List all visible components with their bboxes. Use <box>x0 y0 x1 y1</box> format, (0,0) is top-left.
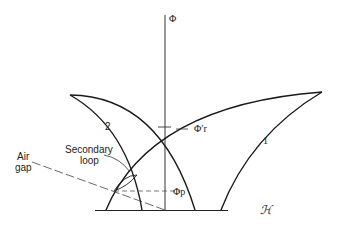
air-gap-label-line2: gap <box>15 162 32 173</box>
air-gap-line <box>32 162 165 210</box>
air-gap-label-line1: Air <box>17 151 29 162</box>
phi-r-label: Φ′r <box>194 123 207 134</box>
curve-1-label: 1 <box>263 135 268 146</box>
h-axis-label: ℋ <box>260 205 272 216</box>
phi-p-label: Φp <box>173 186 185 197</box>
phi-axis-label: Φ <box>169 13 176 24</box>
secondary-loop-label-line1: Secondary <box>65 144 113 155</box>
diagram-canvas <box>0 0 338 230</box>
curve-1-lower <box>221 92 322 210</box>
curve-2-label: 2 <box>105 121 111 132</box>
secondary-loop-label-line2: loop <box>80 155 99 166</box>
